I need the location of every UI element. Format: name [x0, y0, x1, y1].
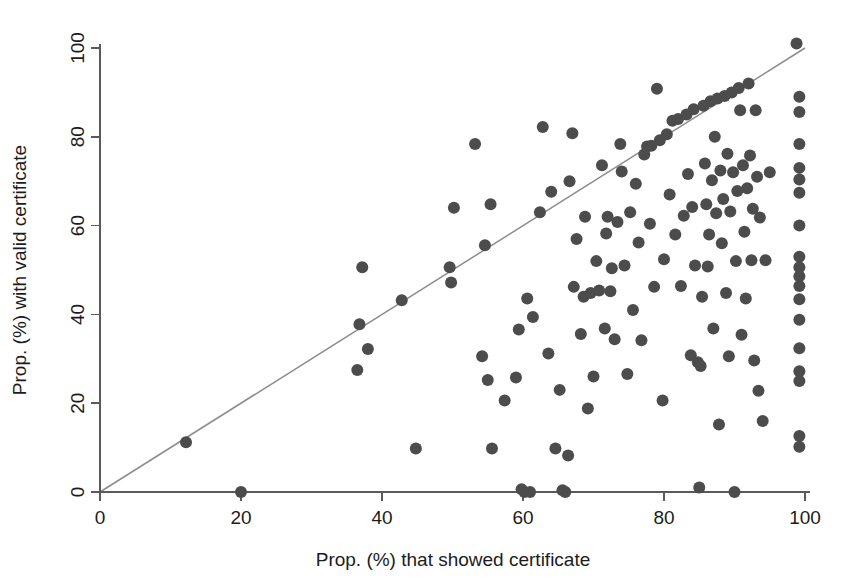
data-point — [621, 368, 633, 380]
data-point — [793, 91, 805, 103]
data-point — [445, 276, 457, 288]
data-point — [744, 149, 756, 161]
data-point — [754, 212, 766, 224]
data-point — [521, 292, 533, 304]
data-point — [791, 38, 803, 50]
data-point — [527, 311, 539, 323]
data-point — [410, 442, 422, 454]
y-tick-label: 100 — [67, 32, 88, 64]
data-point — [590, 255, 602, 267]
data-point — [542, 347, 554, 359]
data-point — [793, 251, 805, 263]
x-tick-label: 60 — [512, 507, 533, 528]
data-point — [669, 228, 681, 240]
data-point — [793, 138, 805, 150]
data-point — [793, 187, 805, 199]
data-point — [720, 287, 732, 299]
data-point — [600, 228, 612, 240]
data-point — [469, 138, 481, 150]
data-point — [703, 228, 715, 240]
data-point — [575, 328, 587, 340]
data-point — [709, 131, 721, 143]
data-point — [738, 226, 750, 238]
data-point — [235, 486, 247, 498]
data-point — [485, 198, 497, 210]
y-tick-label: 0 — [67, 487, 88, 498]
data-point — [476, 350, 488, 362]
y-tick-label: 60 — [67, 215, 88, 236]
data-point — [566, 127, 578, 139]
data-point — [699, 157, 711, 169]
data-point — [396, 294, 408, 306]
data-point — [351, 364, 363, 376]
data-point — [479, 239, 491, 251]
data-point — [549, 442, 561, 454]
data-point — [562, 450, 574, 462]
data-point — [627, 304, 639, 316]
data-point — [740, 292, 752, 304]
data-points — [180, 38, 805, 498]
data-point — [689, 260, 701, 272]
data-point — [678, 210, 690, 222]
data-point — [793, 430, 805, 442]
data-point — [534, 206, 546, 218]
data-point — [750, 104, 762, 116]
data-point — [444, 261, 456, 273]
data-point — [723, 350, 735, 362]
data-point — [793, 375, 805, 387]
data-point — [760, 254, 772, 266]
data-point — [356, 261, 368, 273]
data-point — [545, 186, 557, 198]
data-point — [751, 171, 763, 183]
data-point — [482, 374, 494, 386]
data-point — [737, 159, 749, 171]
data-point — [752, 385, 764, 397]
data-point — [609, 333, 621, 345]
data-point — [717, 193, 729, 205]
data-point — [510, 371, 522, 383]
data-point — [611, 216, 623, 228]
data-point — [362, 343, 374, 355]
data-point — [764, 166, 776, 178]
data-point — [793, 220, 805, 232]
data-point — [714, 165, 726, 177]
data-point — [537, 121, 549, 133]
data-point — [693, 482, 705, 494]
data-point — [664, 189, 676, 201]
data-point — [604, 285, 616, 297]
data-point — [651, 83, 663, 95]
chart-canvas: 020406080100020406080100 Prop. (%) that … — [0, 0, 846, 583]
data-point — [696, 291, 708, 303]
x-tick-label: 80 — [653, 507, 674, 528]
data-point — [695, 360, 707, 372]
data-point — [564, 175, 576, 187]
data-point — [748, 355, 760, 367]
data-point — [675, 280, 687, 292]
data-point — [571, 233, 583, 245]
data-point — [793, 441, 805, 453]
data-point — [724, 205, 736, 217]
data-point — [757, 415, 769, 427]
data-point — [588, 371, 600, 383]
data-point — [486, 442, 498, 454]
data-point — [596, 159, 608, 171]
data-point — [614, 138, 626, 150]
data-point — [661, 128, 673, 140]
y-tick-label: 80 — [67, 126, 88, 147]
data-point — [682, 168, 694, 180]
data-point — [793, 293, 805, 305]
data-point — [793, 342, 805, 354]
data-point — [686, 201, 698, 213]
data-point — [793, 314, 805, 326]
data-point — [700, 198, 712, 210]
x-tick-label: 40 — [371, 507, 392, 528]
data-point — [729, 486, 741, 498]
data-point — [727, 166, 739, 178]
data-point — [579, 211, 591, 223]
data-point — [793, 106, 805, 118]
data-point — [180, 436, 192, 448]
y-tick-label: 40 — [67, 304, 88, 325]
data-point — [513, 323, 525, 335]
data-point — [793, 162, 805, 174]
data-point — [745, 254, 757, 266]
